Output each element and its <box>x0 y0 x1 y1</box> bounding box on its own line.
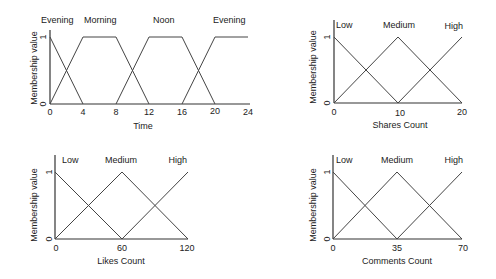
y-tick: 1 <box>38 34 48 39</box>
series-label: High <box>168 155 187 165</box>
x-tick: 4 <box>80 107 85 117</box>
x-tick: 0 <box>53 243 58 253</box>
x-tick: 35 <box>392 243 402 253</box>
x-tick: 70 <box>458 243 468 253</box>
x-tick: 60 <box>117 243 127 253</box>
x-axis-label: Comments Count <box>362 256 433 266</box>
chart-time: Evening Morning Noon Evening 0 4 8 12 16… <box>29 15 253 131</box>
fuzzy-membership-charts: Evening Morning Noon Evening 0 4 8 12 16… <box>0 0 496 279</box>
x-axis-label: Shares Count <box>372 120 428 130</box>
y-axis-label: Membership value <box>308 30 318 104</box>
mf-noon <box>116 37 215 104</box>
y-tick: 1 <box>322 169 332 174</box>
x-axis-label: Likes Count <box>97 256 145 266</box>
series-label: High <box>444 21 463 31</box>
mf-evening-right <box>182 37 248 104</box>
chart-comments: Low Medium High 0 35 70 0 1 Comments Cou… <box>308 155 468 266</box>
mf-medium <box>55 172 188 239</box>
x-tick: 12 <box>144 107 154 117</box>
series-label: Noon <box>153 15 175 25</box>
x-tick: 120 <box>179 243 194 253</box>
x-tick: 8 <box>113 107 118 117</box>
series-label: Morning <box>84 15 117 25</box>
mf-morning <box>50 37 149 104</box>
y-axis-label: Membership value <box>29 168 39 242</box>
series-label: Evening <box>41 15 74 25</box>
x-tick: 10 <box>395 108 405 118</box>
series-label: Medium <box>105 155 137 165</box>
y-tick: 1 <box>322 34 332 39</box>
x-axis-label: Time <box>133 121 153 131</box>
series-label: Evening <box>213 15 246 25</box>
y-tick: 1 <box>44 169 54 174</box>
chart-shares: Low Medium High 0 10 20 0 1 Shares Count… <box>308 20 467 130</box>
mf-medium <box>333 172 462 239</box>
x-tick: 16 <box>177 107 187 117</box>
series-label: Medium <box>383 20 415 30</box>
series-label: Medium <box>381 155 413 165</box>
y-tick: 0 <box>38 101 48 106</box>
x-tick: 24 <box>243 107 253 117</box>
y-tick: 0 <box>44 236 54 241</box>
x-tick: 0 <box>330 243 335 253</box>
series-label: High <box>444 155 463 165</box>
series-label: Low <box>62 155 79 165</box>
mf-medium <box>334 37 462 103</box>
x-tick: 0 <box>47 107 52 117</box>
x-tick: 20 <box>457 107 467 117</box>
series-label: Low <box>336 155 353 165</box>
series-label: Low <box>336 20 353 30</box>
y-tick: 0 <box>322 236 332 241</box>
chart-likes: Low Medium High 0 60 120 0 1 Likes Count… <box>29 155 195 266</box>
y-tick: 0 <box>322 100 332 105</box>
x-tick: 20 <box>210 106 220 116</box>
y-axis-label: Membership value <box>308 168 318 242</box>
x-tick: 0 <box>331 107 336 117</box>
y-axis-label: Membership value <box>29 31 39 105</box>
